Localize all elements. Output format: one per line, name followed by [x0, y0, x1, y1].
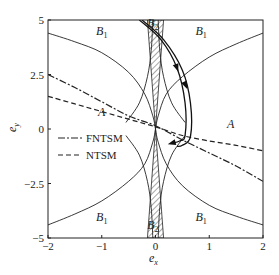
x-tick-label: −1	[96, 240, 108, 252]
region-label-A: A	[226, 117, 235, 131]
x-tick-label: 1	[207, 240, 213, 252]
legend-label-fntsm: FNTSM	[86, 132, 123, 144]
y-tick-label: −5	[32, 232, 44, 244]
y-tick-label: 5	[39, 14, 45, 26]
x-axis-label-sub: x	[153, 258, 158, 267]
y-tick-label: 2.5	[30, 69, 44, 81]
region-label-B1: B1	[196, 24, 207, 40]
region-label-B1: B1	[96, 24, 107, 40]
upper-right-boundary	[156, 33, 264, 129]
y-tick-label: 0	[39, 123, 45, 135]
region-label-B1: B1	[196, 210, 207, 226]
y-axis-label: ey	[5, 123, 21, 132]
region-label-B2: B2	[147, 16, 158, 32]
y-axis-label-sub: y	[12, 123, 21, 128]
region-label-B1: B1	[96, 210, 107, 226]
region-label-A: A	[97, 105, 106, 119]
x-axis-label: ex	[149, 251, 158, 267]
legend-label-ntsm: NTSM	[86, 149, 117, 161]
legend: FNTSM NTSM	[58, 132, 123, 161]
phase-plot: −2−101252.50−2.5−5 AAB1B1B1B1B2B2 FNTSM …	[0, 0, 279, 275]
trajectory-arrow-3	[167, 139, 176, 147]
y-tick-label: −2.5	[24, 178, 44, 190]
x-tick-label: 2	[260, 240, 266, 252]
